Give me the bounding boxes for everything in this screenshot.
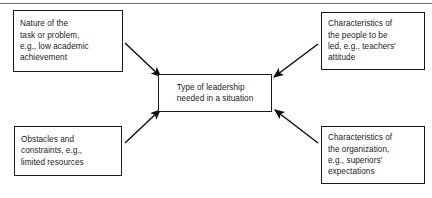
node-characteristics-of-organization: Characteristics of the organization, e.g… bbox=[321, 126, 425, 184]
node-characteristics-of-people: Characteristics of the people to be led,… bbox=[321, 12, 425, 70]
arrow-organization-to-center bbox=[275, 110, 318, 143]
arrow-people-to-center bbox=[274, 44, 318, 77]
node-obstacles-and-constraints: Obstacles and constraints, e.g., limited… bbox=[14, 126, 122, 176]
arrow-obstacles-to-center bbox=[125, 110, 160, 143]
leadership-situation-diagram: Nature of the task or problem, e.g., low… bbox=[0, 0, 432, 198]
node-obstacles-and-constraints-label: Obstacles and constraints, e.g., limited… bbox=[15, 134, 90, 168]
node-type-of-leadership-label: Type of leadership needed in a situation bbox=[171, 82, 260, 105]
node-nature-of-task-label: Nature of the task or problem, e.g., low… bbox=[14, 18, 95, 64]
node-characteristics-of-organization-label: Characteristics of the organization, e.g… bbox=[322, 132, 398, 178]
node-characteristics-of-people-label: Characteristics of the people to be led,… bbox=[322, 18, 402, 64]
node-nature-of-task: Nature of the task or problem, e.g., low… bbox=[13, 10, 123, 72]
node-type-of-leadership: Type of leadership needed in a situation bbox=[158, 74, 272, 112]
arrow-task-to-center bbox=[125, 43, 161, 77]
